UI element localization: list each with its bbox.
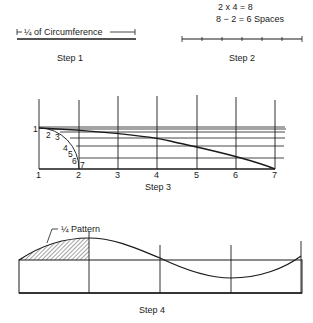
step3-caption: Step 3 (145, 182, 171, 192)
development-diagram: ¼ of Circumference Step 1 2 x 4 = 8 8 − … (0, 0, 313, 323)
step2-equation-1: 2 x 4 = 8 (218, 2, 253, 12)
svg-text:1: 1 (36, 170, 41, 180)
step4-rectangle (19, 260, 302, 293)
step4-pattern-leader (47, 229, 58, 243)
step4-vertical-lines (89, 232, 301, 293)
step4-group: ¼ Pattern Step 4 (19, 224, 302, 315)
svg-text:3: 3 (115, 170, 120, 180)
svg-text:4: 4 (154, 170, 159, 180)
step1-caption: Step 1 (57, 53, 83, 63)
step2-caption: Step 2 (229, 53, 255, 63)
step3-bottom-labels: 1 2 3 4 5 6 7 (36, 170, 277, 180)
step1-measure-label: ¼ of Circumference (24, 27, 103, 37)
svg-text:2: 2 (76, 170, 81, 180)
step1-group: ¼ of Circumference Step 1 (17, 27, 136, 63)
svg-text:6: 6 (233, 170, 238, 180)
svg-text:3: 3 (55, 132, 60, 142)
svg-text:5: 5 (194, 170, 199, 180)
svg-text:6: 6 (72, 156, 77, 166)
step3-group: 1 2 3 4 5 6 7 1 2 3 4 5 6 7 Step 3 (33, 95, 286, 192)
svg-text:1: 1 (33, 124, 38, 134)
step2-equation-2: 8 − 2 = 6 Spaces (216, 14, 285, 24)
svg-text:7: 7 (80, 160, 85, 170)
step3-arc-labels: 1 2 3 4 5 6 7 (33, 124, 85, 170)
step4-caption: Step 4 (139, 305, 165, 315)
step4-hatched-quarter-pattern (19, 238, 89, 260)
step2-group: 2 x 4 = 8 8 − 2 = 6 Spaces Step 2 (182, 2, 302, 63)
svg-text:2: 2 (46, 130, 51, 140)
svg-text:7: 7 (272, 170, 277, 180)
step4-pattern-label: ¼ Pattern (61, 224, 100, 234)
